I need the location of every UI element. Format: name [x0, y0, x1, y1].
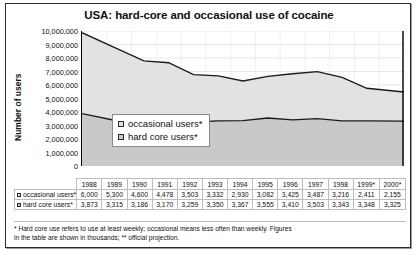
table-row: hard core users*3,8733,3153,1863,1703,25…: [15, 200, 406, 210]
chart-legend: occasional users* hard core users*: [112, 114, 210, 147]
y-tick-label: 2,000,000: [46, 135, 78, 144]
legend-label-occasional: occasional users*: [128, 117, 202, 130]
legend-label-hardcore: hard core users*: [128, 130, 198, 143]
table-year-header: 1992: [177, 179, 202, 190]
table-cell: 6,000: [77, 190, 102, 200]
footnote-line-2: in the table are shown in thousands; ** …: [14, 234, 406, 243]
table-cell: 3,332: [202, 190, 227, 200]
y-tick-label: 10,000,000: [41, 27, 78, 36]
table-cell: 3,487: [303, 190, 328, 200]
footnote-line-1: * Hard core use refers to use at least w…: [14, 225, 406, 234]
table-cell: 3,555: [253, 200, 278, 210]
table-cell: 3,186: [127, 200, 152, 210]
area-series-occasional-users: [82, 33, 404, 124]
legend-item-hardcore: hard core users*: [118, 130, 202, 143]
table-cell: 3,503: [303, 200, 328, 210]
y-tick-label: 3,000,000: [46, 121, 78, 130]
table-cell: 3,170: [152, 200, 177, 210]
y-tick-label: 5,000,000: [46, 94, 78, 103]
y-axis-label: Number of users: [13, 62, 27, 152]
table-row-label: occasional users*: [23, 191, 76, 198]
table-year-header: 1991: [152, 179, 177, 190]
table-row-swatch-icon: [17, 203, 21, 207]
table-cell: 3,315: [102, 200, 127, 210]
table-year-header: 1995: [253, 179, 278, 190]
table-cell: 3,367: [228, 200, 253, 210]
table-cell: 3,410: [278, 200, 303, 210]
table-cell: 2,930: [228, 190, 253, 200]
table-cell: 3,343: [328, 200, 353, 210]
table-cell: 3,873: [77, 200, 102, 210]
table-cell: 3,425: [278, 190, 303, 200]
screenshot-root: USA: hard-core and occasional use of coc…: [0, 0, 417, 256]
data-table: 1988198919901991199219931994199519961997…: [14, 178, 406, 210]
table-cell: 3,348: [353, 200, 379, 210]
table-year-header: 1988: [77, 179, 102, 190]
legend-swatch-icon-occasional: [118, 121, 124, 127]
table-cell: 3,325: [379, 200, 405, 210]
table-cell: 2,155: [379, 190, 405, 200]
footnote: * Hard core use refers to use at least w…: [14, 223, 406, 242]
legend-item-occasional: occasional users*: [118, 117, 202, 130]
table-header-row: 1988198919901991199219931994199519961997…: [15, 179, 406, 190]
table-cell: 4,600: [127, 190, 152, 200]
y-tick-label: 7,000,000: [46, 67, 78, 76]
y-axis-ticks: 10,000,0009,000,0008,000,0007,000,0006,0…: [28, 26, 80, 178]
legend-swatch-icon-hardcore: [118, 134, 124, 140]
table-footnote-divider: [14, 221, 406, 222]
table-cell: 3,259: [177, 200, 202, 210]
y-tick-label: 4,000,000: [46, 108, 78, 117]
table-cell: 2,411: [353, 190, 379, 200]
table-year-header: 1996: [278, 179, 303, 190]
table-year-header: 1998: [328, 179, 353, 190]
table-year-header: 2000*: [379, 179, 405, 190]
table-year-header: 1999*: [353, 179, 379, 190]
plot-area-wrapper: Number of users 10,000,0009,000,0008,000…: [14, 26, 406, 178]
table-cell: 5,300: [102, 190, 127, 200]
table-year-header: 1990: [127, 179, 152, 190]
table-cell: 3,082: [253, 190, 278, 200]
table-cell: 3,503: [177, 190, 202, 200]
table-corner-cell: [15, 179, 77, 190]
y-tick-label: 9,000,000: [46, 40, 78, 49]
table-year-header: 1993: [202, 179, 227, 190]
table-row-label-cell: hard core users*: [15, 200, 77, 210]
table-row-label-cell: occasional users*: [15, 190, 77, 200]
table-row-label: hard core users*: [23, 201, 73, 208]
y-tick-label: 0: [74, 162, 78, 171]
table-year-header: 1997: [303, 179, 328, 190]
table-cell: 3,216: [328, 190, 353, 200]
table-row: occasional users*6,0005,3004,6004,4783,5…: [15, 190, 406, 200]
table-year-header: 1989: [102, 179, 127, 190]
table-year-header: 1994: [228, 179, 253, 190]
y-tick-label: 1,000,000: [46, 148, 78, 157]
y-tick-label: 6,000,000: [46, 81, 78, 90]
table-row-swatch-icon: [17, 193, 21, 197]
chart-card: USA: hard-core and occasional use of coc…: [5, 3, 411, 248]
table-cell: 4,478: [152, 190, 177, 200]
y-tick-label: 8,000,000: [46, 54, 78, 63]
chart-title: USA: hard-core and occasional use of coc…: [6, 9, 412, 21]
table-cell: 3,350: [202, 200, 227, 210]
